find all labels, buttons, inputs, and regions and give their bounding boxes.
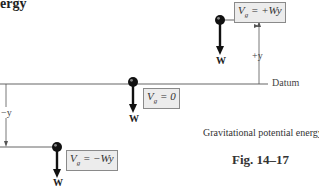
potential-box-datum: Vg = 0 bbox=[143, 88, 180, 109]
figure-number: Fig. 14–17 bbox=[232, 152, 289, 168]
weight-label-below: W bbox=[53, 177, 63, 188]
potential-value: = +Wy bbox=[248, 4, 281, 16]
weight-label-above: W bbox=[216, 55, 226, 66]
potential-value: = 0 bbox=[157, 90, 175, 102]
weight-label-datum: W bbox=[129, 113, 139, 124]
potential-symbol: V bbox=[238, 4, 245, 16]
figure-caption: Gravitational potential energy bbox=[203, 127, 319, 138]
ball-above bbox=[215, 15, 225, 25]
ball-datum bbox=[128, 77, 138, 87]
offset-label-minus-y: −y bbox=[0, 107, 13, 118]
potential-symbol: V bbox=[147, 90, 154, 102]
ball-below bbox=[52, 142, 62, 152]
offset-label-plus-y: +y bbox=[252, 50, 263, 61]
datum-label: Datum bbox=[272, 77, 299, 88]
potential-value: = −Wy bbox=[80, 152, 113, 164]
potential-box-above: Vg = +Wy bbox=[234, 2, 286, 23]
potential-box-below: Vg = −Wy bbox=[66, 150, 118, 171]
potential-symbol: V bbox=[70, 152, 77, 164]
